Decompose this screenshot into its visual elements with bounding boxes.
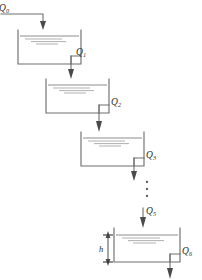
down-arrow-icon	[167, 268, 173, 279]
inflow-pipe-q0	[1, 14, 46, 30]
down-arrow-icon	[68, 69, 74, 79]
intermediate-flow-label: Q5	[146, 206, 156, 217]
diagram-canvas: Q0 Q1 Q2	[0, 0, 202, 280]
ellipsis-dot	[146, 188, 148, 190]
height-dimension-h	[103, 231, 113, 266]
tank-2-outlet-pipe	[99, 105, 109, 113]
down-arrow-icon	[96, 121, 102, 132]
tank-4-outlet-pipe	[170, 254, 180, 262]
height-label: h	[99, 244, 103, 254]
tank-3-outlet	[131, 158, 144, 181]
tank-1-outflow-label: Q1	[76, 47, 86, 58]
tank-1-outlet-pipe	[71, 56, 81, 64]
inflow-label-q0: Q0	[0, 3, 10, 14]
down-arrow-icon	[40, 21, 46, 30]
tank-4-outflow-label: Q6	[182, 246, 193, 257]
down-arrow-icon	[140, 217, 146, 228]
down-arrow-icon	[131, 171, 137, 181]
ellipsis-dot	[146, 181, 148, 183]
inflow-pipe-path	[1, 14, 43, 22]
vertical-ellipsis-icon	[146, 181, 148, 197]
tank-1-outlet	[68, 56, 81, 79]
tank-2-outlet	[96, 105, 109, 132]
tank-cascade-diagram: Q0 Q1 Q2	[0, 0, 202, 280]
tank-4-outlet	[167, 254, 180, 279]
tank-2-outflow-label: Q2	[111, 97, 121, 108]
ellipsis-dot	[146, 195, 148, 197]
tank-3-outflow-label: Q3	[146, 150, 156, 161]
tank-3-outlet-pipe	[134, 158, 144, 166]
